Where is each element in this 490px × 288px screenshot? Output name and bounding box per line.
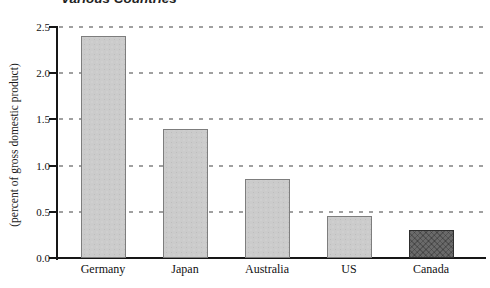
chart-title: Various Countries (61, 0, 177, 7)
x-category-label-japan: Japan (140, 263, 230, 276)
y-tick-1.0 (49, 165, 56, 167)
bar-us (327, 216, 372, 258)
x-category-label-germany: Germany (58, 263, 148, 276)
bar-australia (245, 179, 290, 258)
y-tick-2.0 (49, 72, 56, 74)
y-tick-label-1.0: 1.0 (18, 160, 50, 172)
bar-germany (81, 36, 126, 258)
x-category-label-australia: Australia (222, 263, 312, 276)
y-tick-label-0.5: 0.5 (18, 206, 50, 218)
y-tick-2.5 (49, 26, 56, 28)
y-tick-label-2.0: 2.0 (18, 67, 50, 79)
gridline-y-2.5 (59, 26, 486, 28)
y-tick-0.0 (49, 257, 56, 259)
y-tick-label-1.5: 1.5 (18, 113, 50, 125)
x-category-label-us: US (304, 263, 394, 276)
y-tick-1.5 (49, 118, 56, 120)
y-tick-label-2.5: 2.5 (18, 21, 50, 33)
bar-canada (409, 230, 454, 258)
bar-chart-figure: Various Countries (percent of gross dome… (0, 0, 490, 288)
x-category-label-canada: Canada (386, 263, 476, 276)
y-tick-label-0.0: 0.0 (18, 252, 50, 264)
bar-japan (163, 129, 208, 258)
y-axis-line (56, 26, 58, 260)
y-tick-0.5 (49, 211, 56, 213)
